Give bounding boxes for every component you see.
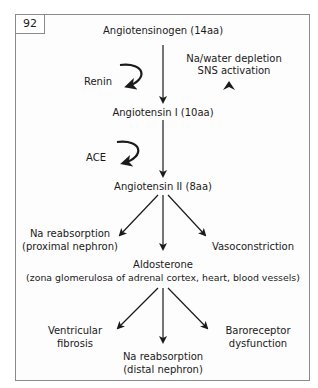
node-angiotensin-2: Angiotensin II (8aa) (108, 180, 218, 193)
node-baroreceptor-line1: Baroreceptor (218, 324, 298, 337)
node-na-prox-line2: (proximal nephron) (22, 240, 118, 253)
enzyme-ace: ACE (80, 151, 112, 164)
renin-curved-arrow (120, 65, 141, 86)
node-stimulus-line2: SNS activation (184, 64, 284, 77)
enzyme-renin: Renin (78, 75, 118, 88)
node-baroreceptor-line2: dysfunction (218, 337, 298, 350)
node-na-prox-line1: Na reabsorption (28, 227, 112, 240)
node-angiotensin-1: Angiotensin I (10aa) (108, 106, 218, 119)
node-aldosterone-line1: Aldosterone (123, 258, 203, 271)
stimulus-arrowhead-icon (223, 81, 235, 90)
arrow-aldo-to-baroreceptor (168, 288, 207, 328)
arrow-ang2-to-vasoconstriction (168, 195, 205, 235)
node-angiotensinogen: Angiotensinogen (14aa) (103, 24, 223, 37)
node-vasoconstriction: Vasoconstriction (208, 240, 298, 253)
node-na-distal-line1: Na reabsorption (118, 350, 208, 363)
arrow-aldo-to-ventricular (118, 288, 158, 328)
ace-curved-arrow (117, 142, 138, 163)
node-na-distal-line2: (distal nephron) (118, 363, 208, 376)
node-ventricular-line1: Ventricular (40, 324, 110, 337)
node-aldosterone-line2: (zona glomerulosa of adrenal cortex, hea… (17, 271, 309, 284)
node-ventricular-line2: fibrosis (40, 337, 110, 350)
arrow-ang2-to-na-prox (120, 195, 158, 235)
